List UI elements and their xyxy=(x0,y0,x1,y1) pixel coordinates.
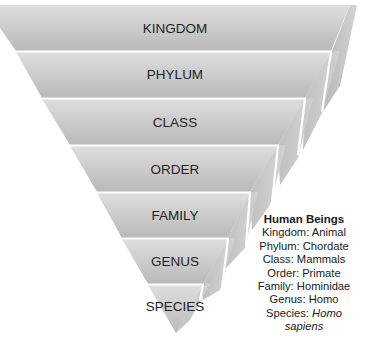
layer-label-species: SPECIES xyxy=(146,299,205,314)
annotation-order: Order: Primate xyxy=(248,267,360,280)
layer-label-genus: GENUS xyxy=(151,254,199,269)
annotation-family: Family: Hominidae xyxy=(248,280,360,293)
annotation-kingdom: Kingdom: Animal xyxy=(248,226,360,239)
annotation-species-epithet-text: sapiens xyxy=(285,320,324,332)
annotation-phylum: Phylum: Chordate xyxy=(248,240,360,253)
annotation-genus: Genus: Homo xyxy=(248,293,360,306)
layer-label-class: CLASS xyxy=(153,115,197,130)
annotation-species: Species: Homo xyxy=(248,307,360,320)
annotation-species-genus: Homo xyxy=(312,307,342,319)
layer-label-kingdom: KINGDOM xyxy=(143,21,208,36)
layer-label-phylum: PHYLUM xyxy=(147,67,203,82)
layer-label-order: ORDER xyxy=(151,162,200,177)
human-beings-annotation: Human Beings Kingdom: Animal Phylum: Cho… xyxy=(248,213,360,334)
layer-label-family: FAMILY xyxy=(151,208,198,223)
annotation-species-prefix: Species: xyxy=(266,307,312,319)
annotation-species-epithet: sapiens xyxy=(248,320,360,333)
annotation-class: Class: Mammals xyxy=(248,253,360,266)
annotation-title: Human Beings xyxy=(248,213,360,226)
